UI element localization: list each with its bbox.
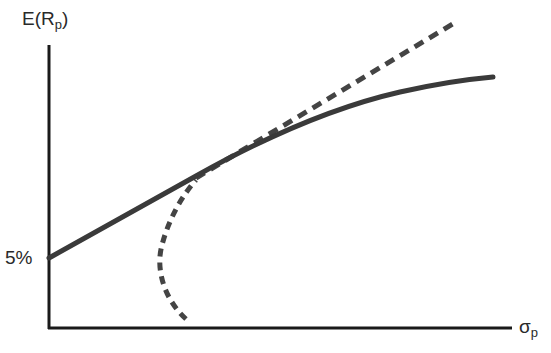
capital-allocation-line-solid [49,77,493,258]
efficient-frontier-dashed [160,180,196,319]
x-axis-label: σp [519,316,538,340]
chart-canvas [0,0,551,353]
y-tick-risk-free-rate: 5% [5,247,32,269]
y-axis-label: E(Rp) [22,8,68,32]
axes [48,45,512,329]
